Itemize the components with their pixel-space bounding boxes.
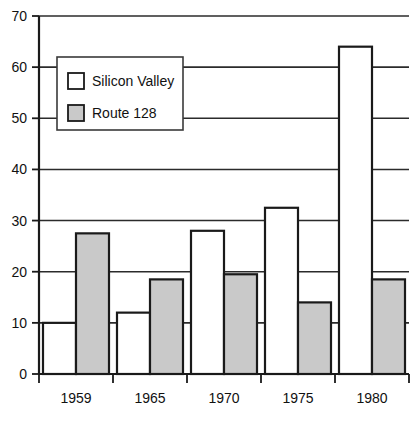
legend-swatch-silicon-valley [68,73,84,89]
bar-1975-silicon-valley [265,208,298,374]
y-tick-label-20: 20 [11,264,27,280]
legend-swatch-route-128 [68,105,84,121]
bar-1980-route-128 [372,279,405,374]
y-tick-label-0: 0 [19,366,27,382]
y-tick-label-50: 50 [11,110,27,126]
bar-1965-silicon-valley [117,313,150,374]
x-axis-label-1965: 1965 [134,390,165,406]
bar-1970-silicon-valley [191,231,224,374]
legend-label-silicon-valley: Silicon Valley [92,73,174,89]
bar-1970-route-128 [224,274,257,374]
x-axis-label-1975: 1975 [282,390,313,406]
bar-1980-silicon-valley [339,47,372,374]
bar-1959-route-128 [76,233,109,374]
bar-chart: 010203040506070 19591965197019751980 Sil… [0,0,417,422]
chart-legend: Silicon ValleyRoute 128 [57,57,183,130]
legend-label-route-128: Route 128 [92,105,157,121]
bar-1965-route-128 [150,279,183,374]
y-tick-label-70: 70 [11,8,27,24]
bar-1959-silicon-valley [43,323,76,374]
y-tick-label-10: 10 [11,315,27,331]
y-tick-label-60: 60 [11,59,27,75]
x-axis-label-1959: 1959 [60,390,91,406]
x-axis-label-1970: 1970 [208,390,239,406]
chart-canvas: 010203040506070 19591965197019751980 Sil… [0,0,417,422]
x-axis-label-1980: 1980 [356,390,387,406]
y-tick-label-30: 30 [11,213,27,229]
y-tick-label-40: 40 [11,161,27,177]
bar-1975-route-128 [298,302,331,374]
